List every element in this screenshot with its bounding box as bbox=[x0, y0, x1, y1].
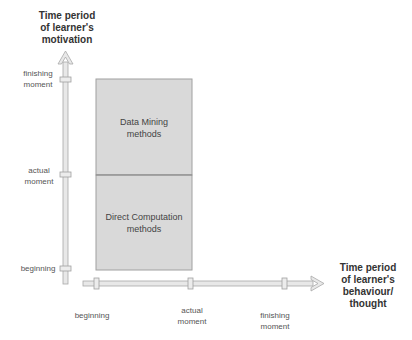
y-tick-label-line: beginning bbox=[18, 263, 58, 274]
y-tick-label-beginning: beginning bbox=[18, 263, 58, 274]
y-tick-label-line: actual bbox=[20, 165, 58, 176]
x-tick-beginning bbox=[94, 278, 99, 289]
y-axis bbox=[58, 51, 73, 284]
region-label-line: Data Mining bbox=[96, 116, 192, 128]
x-tick-label-line: moment bbox=[172, 316, 212, 327]
data-mining-label: Data Mining methods bbox=[96, 116, 192, 140]
x-tick-label-line: actual bbox=[172, 305, 212, 316]
y-axis-title: Time period of learner's motivation bbox=[24, 10, 110, 46]
direct-computation-label: Direct Computation methods bbox=[96, 211, 192, 235]
y-axis-title-line: motivation bbox=[24, 34, 110, 46]
y-tick-beginning bbox=[60, 266, 71, 271]
y-axis-title-line: Time period bbox=[24, 10, 110, 22]
x-tick-actual bbox=[188, 278, 193, 289]
region-label-line: methods bbox=[96, 223, 192, 235]
x-tick-label-beginning: beginning bbox=[70, 310, 114, 321]
x-axis-shaft bbox=[83, 281, 313, 286]
x-axis-title-line: Time period bbox=[328, 262, 408, 274]
y-axis-title-line: of learner's bbox=[24, 22, 110, 34]
x-axis bbox=[83, 276, 324, 291]
region-label-line: Direct Computation bbox=[96, 211, 192, 223]
y-tick-finishing bbox=[60, 77, 71, 82]
y-tick-label-line: moment bbox=[20, 176, 58, 187]
x-axis-title: Time period of learner's behaviour/ thou… bbox=[328, 262, 408, 310]
x-axis-title-line: of learner's bbox=[328, 274, 408, 286]
x-tick-finishing bbox=[282, 278, 287, 289]
region-label-line: methods bbox=[96, 128, 192, 140]
x-tick-label-finishing: finishing moment bbox=[253, 310, 297, 332]
x-tick-label-actual: actual moment bbox=[172, 305, 212, 327]
methods-box bbox=[96, 79, 192, 270]
y-tick-label-line: moment bbox=[18, 79, 58, 90]
y-tick-label-finishing: finishing moment bbox=[18, 68, 58, 90]
x-tick-label-line: moment bbox=[253, 321, 297, 332]
x-axis-title-line: thought bbox=[328, 298, 408, 310]
x-axis-title-line: behaviour/ bbox=[328, 286, 408, 298]
x-tick-label-line: beginning bbox=[70, 310, 114, 321]
x-tick-label-line: finishing bbox=[253, 310, 297, 321]
y-tick-actual bbox=[60, 172, 71, 177]
y-tick-label-line: finishing bbox=[18, 68, 58, 79]
y-tick-label-actual: actual moment bbox=[20, 165, 58, 187]
